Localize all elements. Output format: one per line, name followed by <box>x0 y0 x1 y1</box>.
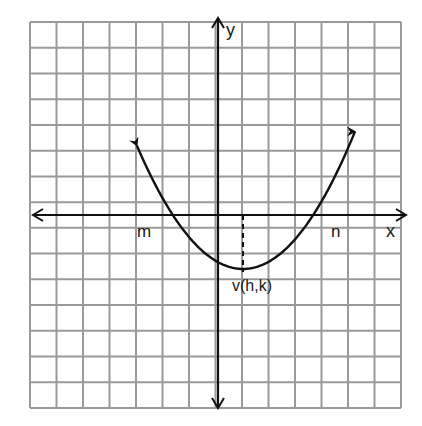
x-axis-label: x <box>386 221 395 241</box>
vertex-label: v(h,k) <box>232 277 272 294</box>
y-axis-label: y <box>226 20 235 40</box>
parabola-figure: y x m n v(h,k) <box>0 0 422 426</box>
root-label-m: m <box>137 222 151 241</box>
root-label-n: n <box>331 222 340 241</box>
